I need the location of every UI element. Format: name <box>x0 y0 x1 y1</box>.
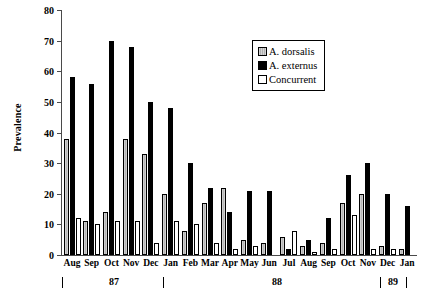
bar-concurrent <box>233 249 238 255</box>
legend-item-concurrent: Concurrent <box>258 72 317 86</box>
bar-concurrent <box>214 243 219 255</box>
bar-externus <box>306 240 311 255</box>
year-label-89: 89 <box>388 276 398 287</box>
bar-concurrent <box>352 215 357 255</box>
year-axis-row: 87 88 89 <box>62 276 422 294</box>
bar-dorsalis <box>221 188 226 255</box>
bar-externus <box>208 188 213 255</box>
bar-dorsalis <box>300 246 305 255</box>
bar-group <box>202 10 220 255</box>
year-label-88: 88 <box>272 276 282 287</box>
x-axis-label: Jul <box>283 258 296 268</box>
bar-dorsalis <box>261 243 266 255</box>
bar-group <box>379 10 397 255</box>
bar-group <box>142 10 160 255</box>
bar-externus <box>188 163 193 255</box>
x-axis-label: Jan <box>400 258 415 268</box>
y-tick-label: 30 <box>44 158 54 169</box>
bar-externus <box>70 77 75 255</box>
bar-dorsalis <box>83 221 88 255</box>
year-tick-87-start <box>62 277 63 288</box>
x-axis-label: Jan <box>163 258 178 268</box>
year-tick-88-start <box>163 277 164 288</box>
y-tick-label: 10 <box>44 219 54 230</box>
legend-swatch-concurrent <box>258 75 267 84</box>
bar-dorsalis <box>320 243 325 255</box>
bar-externus <box>286 249 291 255</box>
bar-externus <box>365 163 370 255</box>
legend-label-externus: A. externus <box>269 60 317 71</box>
bar-group <box>162 10 180 255</box>
bar-dorsalis <box>379 246 384 255</box>
y-tick-mark <box>57 255 62 256</box>
x-axis-label: Apr <box>222 258 238 268</box>
x-axis-label: Dec <box>143 258 158 268</box>
y-tick-label: 0 <box>49 250 54 261</box>
year-label-87: 87 <box>109 276 119 287</box>
x-axis-label: Nov <box>123 258 139 268</box>
bar-externus <box>346 175 351 255</box>
y-tick-label: 70 <box>44 35 54 46</box>
bar-externus <box>109 41 114 255</box>
bar-group <box>64 10 82 255</box>
bar-concurrent <box>95 224 100 255</box>
legend-label-concurrent: Concurrent <box>269 74 316 85</box>
x-axis-line <box>58 255 417 256</box>
x-axis-label: Mar <box>201 258 219 268</box>
bar-dorsalis <box>399 249 404 255</box>
bar-dorsalis <box>142 154 147 255</box>
bar-dorsalis <box>182 231 187 256</box>
bar-externus <box>168 108 173 255</box>
bar-externus <box>326 218 331 255</box>
y-tick-label: 80 <box>44 5 54 16</box>
bar-dorsalis <box>162 194 167 255</box>
y-tick-label: 40 <box>44 127 54 138</box>
bar-concurrent <box>76 218 81 255</box>
x-axis-label: Jun <box>262 258 277 268</box>
bar-dorsalis <box>241 240 246 255</box>
x-axis-label: Feb <box>183 258 198 268</box>
plot-area: 01020304050607080 <box>62 10 417 255</box>
bar-concurrent <box>371 249 376 255</box>
y-axis-title-text: Prevalence <box>12 103 23 151</box>
y-tick-label: 50 <box>44 96 54 107</box>
x-axis-label: Dec <box>380 258 395 268</box>
bar-concurrent <box>253 246 258 255</box>
x-axis-label: Aug <box>300 258 317 268</box>
bar-group <box>359 10 377 255</box>
x-axis-label: May <box>240 258 258 268</box>
bar-concurrent <box>135 221 140 255</box>
chart-legend: A. dorsalis A. externus Concurrent <box>252 40 325 91</box>
prevalence-bar-chart: Prevalence 01020304050607080 A. dorsalis… <box>0 0 425 307</box>
bar-dorsalis <box>280 237 285 255</box>
bar-concurrent <box>154 243 159 255</box>
bar-group <box>221 10 239 255</box>
bar-concurrent <box>332 249 337 255</box>
bar-externus <box>385 194 390 255</box>
x-axis-label: Sep <box>321 258 336 268</box>
y-tick-label: 20 <box>44 188 54 199</box>
legend-label-dorsalis: A. dorsalis <box>269 46 315 57</box>
year-tick-89-start <box>380 277 381 288</box>
bar-concurrent <box>194 224 199 255</box>
bar-group <box>340 10 358 255</box>
bar-dorsalis <box>103 212 108 255</box>
bar-externus <box>227 212 232 255</box>
bar-dorsalis <box>340 203 345 255</box>
legend-swatch-dorsalis <box>258 47 267 56</box>
bar-concurrent <box>292 231 297 256</box>
x-axis-label: Nov <box>360 258 376 268</box>
year-tick-89-end <box>406 277 407 288</box>
x-axis-label: Oct <box>104 258 119 268</box>
x-axis-label: Sep <box>84 258 99 268</box>
bar-dorsalis <box>123 139 128 255</box>
bar-concurrent <box>115 221 120 255</box>
bar-externus <box>267 191 272 255</box>
bar-externus <box>148 102 153 255</box>
bar-group <box>103 10 121 255</box>
bar-externus <box>247 191 252 255</box>
bar-externus <box>129 47 134 255</box>
y-tick-label: 60 <box>44 66 54 77</box>
bar-externus <box>89 84 94 256</box>
legend-item-externus: A. externus <box>258 58 317 72</box>
